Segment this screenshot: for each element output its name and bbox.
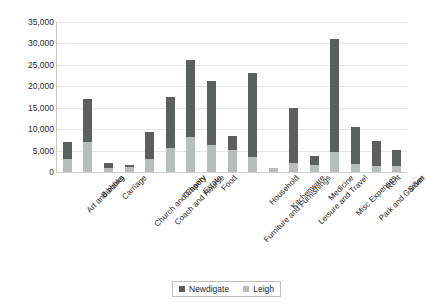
bar-column[interactable] [83,99,92,172]
bar-column[interactable] [228,136,237,172]
x-axis-label: Furniture and Furnishings [263,174,333,244]
bar-segment-newdigate [83,99,92,142]
bar-series-group [57,22,407,172]
bar-segment-leigh [289,163,298,172]
bar-column[interactable] [186,60,195,172]
bar-column[interactable] [330,39,339,172]
y-axis-tick-labels: 35,00030,00025,00020,00015,00010,0005,00… [0,22,54,172]
y-axis-tick-10000: 10,000 [2,125,54,134]
plot-area [57,22,407,172]
bar-segment-newdigate [351,127,360,165]
bar-segment-newdigate [207,81,216,144]
bar-segment-leigh [248,157,257,172]
y-axis-tick-5000: 5,000 [2,146,54,155]
bar-segment-leigh [63,159,72,172]
bar-column[interactable] [351,127,360,172]
chart-legend: NewdigateLeigh [172,281,281,297]
bar-segment-newdigate [310,156,319,165]
bar-column[interactable] [63,142,72,172]
bar-segment-newdigate [289,108,298,163]
bar-column[interactable] [145,132,154,172]
bar-segment-leigh [125,167,134,172]
bar-column[interactable] [269,168,278,172]
bar-segment-leigh [330,152,339,172]
bar-segment-leigh [310,165,319,172]
y-axis-tick-30000: 30,000 [2,39,54,48]
bar-segment-leigh [372,166,381,172]
bar-segment-leigh [269,168,278,172]
bar-segment-newdigate [186,60,195,138]
bar-segment-leigh [104,168,113,172]
bar-column[interactable] [125,165,134,172]
y-axis-tick-20000: 20,000 [2,82,54,91]
bar-segment-newdigate [248,73,257,156]
bar-column[interactable] [166,97,175,172]
bar-segment-leigh [145,159,154,172]
bar-segment-newdigate [392,150,401,165]
bar-segment-newdigate [145,132,154,159]
x-axis-label: Silver [407,174,427,194]
bar-segment-leigh [207,145,216,172]
bar-segment-newdigate [63,142,72,159]
legend-swatch-icon [243,286,249,292]
bar-column[interactable] [372,141,381,172]
bar-segment-leigh [392,166,401,172]
legend-item[interactable]: Newdigate [179,284,229,294]
legend-swatch-icon [179,286,185,292]
y-axis-tick-35000: 35,000 [2,18,54,27]
y-axis-tick-0: 0 [2,168,54,177]
bar-segment-newdigate [228,136,237,149]
legend-item[interactable]: Leigh [243,284,274,294]
bar-segment-newdigate [330,39,339,152]
bar-segment-leigh [166,148,175,172]
x-axis-category-labels: Art and booksBuildingCarriageChurch and … [57,174,407,254]
y-axis-tick-25000: 25,000 [2,61,54,70]
legend-label: Leigh [253,284,274,294]
bar-column[interactable] [289,108,298,172]
bar-segment-newdigate [166,97,175,148]
bar-segment-newdigate [372,141,381,166]
bar-segment-leigh [83,142,92,172]
bar-column[interactable] [207,81,216,172]
y-axis-tick-15000: 15,000 [2,103,54,112]
bar-segment-leigh [228,150,237,172]
bar-column[interactable] [248,73,257,172]
bar-column[interactable] [310,156,319,172]
bar-segment-leigh [186,137,195,172]
bar-segment-leigh [351,164,360,172]
bar-column[interactable] [104,163,113,172]
legend-label: Newdigate [189,284,229,294]
bar-column[interactable] [392,150,401,172]
